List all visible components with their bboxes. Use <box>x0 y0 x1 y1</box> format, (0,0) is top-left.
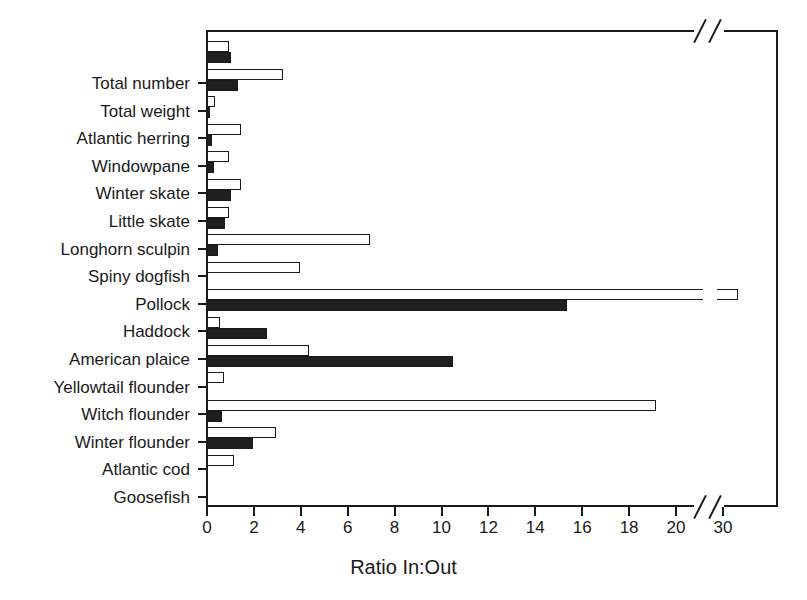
x-axis-tick-label: 12 <box>479 518 498 537</box>
x-axis-tick <box>206 507 208 516</box>
x-axis-tick-label: 18 <box>620 518 639 537</box>
y-axis-tick <box>198 413 207 415</box>
x-axis-tick-label: 4 <box>296 518 305 537</box>
y-axis-tick <box>198 165 207 167</box>
bar <box>207 300 567 311</box>
y-axis-category-label: Atlantic cod <box>102 461 190 478</box>
y-axis-tick <box>198 330 207 332</box>
bar <box>207 96 215 107</box>
y-axis-tick <box>198 358 207 360</box>
bar <box>207 207 229 218</box>
x-axis-tick-label: 8 <box>390 518 399 537</box>
bar <box>207 455 234 466</box>
y-axis-tick <box>198 441 207 443</box>
bar <box>207 162 214 173</box>
y-axis-category-label: Goosefish <box>113 489 190 506</box>
bar <box>207 372 224 383</box>
bar <box>207 41 229 52</box>
bar <box>207 400 656 411</box>
y-axis-category-label: Winter flounder <box>75 434 190 451</box>
y-axis-category-label: Atlantic herring <box>77 130 190 147</box>
bar-continued <box>717 289 738 300</box>
bar <box>207 289 703 300</box>
bar <box>207 80 238 91</box>
y-axis-category-label: Windowpane <box>92 158 190 175</box>
y-axis-tick <box>198 82 207 84</box>
x-axis-tick <box>628 507 630 516</box>
y-axis-tick <box>198 386 207 388</box>
bar <box>207 124 241 135</box>
y-axis-category-label: Total number <box>92 75 190 92</box>
x-axis-tick-label: 30 <box>713 518 732 537</box>
y-axis-tick <box>198 220 207 222</box>
y-axis-category-label: Total weight <box>100 103 190 120</box>
bar <box>207 135 212 146</box>
y-axis-category-label: American plaice <box>69 351 190 368</box>
y-axis-tick <box>198 137 207 139</box>
bar <box>207 190 231 201</box>
bar <box>207 328 267 339</box>
bar <box>207 234 370 245</box>
chart-figure: Total numberTotal weightAtlantic herring… <box>0 0 807 600</box>
x-axis-tick <box>675 507 677 516</box>
bar <box>207 218 225 229</box>
bar <box>207 317 220 328</box>
x-axis-tick-label: 0 <box>202 518 211 537</box>
x-axis-tick <box>534 507 536 516</box>
x-axis-tick-label: 10 <box>432 518 451 537</box>
x-axis-tick <box>722 507 724 516</box>
x-axis-tick <box>394 507 396 516</box>
x-axis-tick <box>487 507 489 516</box>
y-axis-tick <box>198 110 207 112</box>
bar <box>207 151 229 162</box>
y-axis-category-label: Yellowtail flounder <box>54 379 190 396</box>
y-axis-category-label: Pollock <box>135 296 190 313</box>
bar <box>207 438 253 449</box>
bar <box>207 427 276 438</box>
x-axis-tick <box>347 507 349 516</box>
x-axis-tick <box>581 507 583 516</box>
y-axis-tick <box>198 303 207 305</box>
bar <box>207 245 218 256</box>
bar <box>207 179 241 190</box>
y-axis-tick <box>198 248 207 250</box>
bar <box>207 107 210 118</box>
y-axis-category-label: Longhorn sculpin <box>61 241 190 258</box>
y-axis-category-label: Little skate <box>109 213 190 230</box>
bar <box>207 345 309 356</box>
y-axis-tick <box>198 496 207 498</box>
y-axis-tick <box>198 275 207 277</box>
bar <box>207 411 222 422</box>
x-axis-tick <box>253 507 255 516</box>
x-axis-tick-label: 14 <box>526 518 545 537</box>
x-axis-tick-label: 2 <box>249 518 258 537</box>
y-axis-category-label: Winter skate <box>96 185 190 202</box>
bar <box>207 69 283 80</box>
x-axis-tick-label: 6 <box>343 518 352 537</box>
y-axis-tick <box>198 468 207 470</box>
x-axis-tick <box>441 507 443 516</box>
bar <box>207 262 300 273</box>
y-axis-category-label: Witch flounder <box>81 406 190 423</box>
y-axis-category-label: Spiny dogfish <box>88 268 190 285</box>
x-axis-title: Ratio In:Out <box>0 556 807 579</box>
x-axis-tick <box>300 507 302 516</box>
x-axis-tick-label: 16 <box>573 518 592 537</box>
bar <box>207 356 453 367</box>
y-axis-category-label: Haddock <box>123 323 190 340</box>
x-axis-tick-label: 20 <box>667 518 686 537</box>
y-axis-tick <box>198 192 207 194</box>
bar <box>207 52 231 63</box>
